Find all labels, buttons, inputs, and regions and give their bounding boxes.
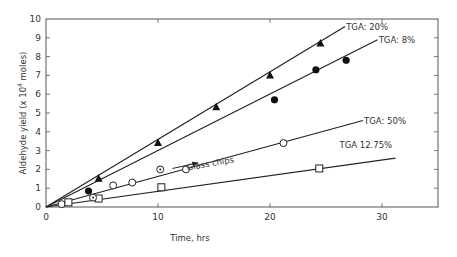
y-tick-label: 4: [35, 127, 41, 137]
open-square-marker: [316, 165, 323, 172]
data-markers: [58, 39, 350, 208]
x-tick-label: 10: [152, 212, 164, 222]
open-circle-marker: [129, 179, 136, 186]
x-tick-label: 30: [376, 212, 388, 222]
filled-circle-marker: [312, 66, 319, 73]
plot-area-border: [46, 19, 438, 207]
y-tick-label: 9: [35, 33, 41, 43]
x-axis-title: Time, hrs: [169, 233, 210, 243]
filled-circle-marker: [343, 57, 350, 64]
dotted-circle-center: [159, 168, 161, 170]
series-labels: TGA: 20%TGA: 8%TGA: 50%TGA 12.75%Glass c…: [186, 22, 415, 173]
open-square-marker: [65, 199, 72, 206]
fit-line: [46, 27, 345, 207]
filled-circle-marker: [85, 187, 92, 194]
series-label: Glass chips: [186, 154, 236, 172]
aldehyde-yield-chart: 0102030012345678910 TGA: 20%TGA: 8%TGA: …: [0, 0, 457, 257]
y-tick-label: 3: [35, 146, 41, 156]
filled-triangle-marker: [95, 174, 103, 182]
y-tick-label: 6: [35, 89, 41, 99]
y-axis-title: Aldehyde yield (x 104 moles): [16, 52, 28, 175]
x-tick-label: 0: [43, 212, 49, 222]
series-label: TGA: 50%: [363, 116, 406, 126]
fit-line: [46, 40, 378, 207]
y-tick-label: 2: [35, 164, 41, 174]
filled-circle-marker: [271, 96, 278, 103]
y-tick-label: 0: [35, 202, 41, 212]
open-circle-marker: [58, 201, 65, 208]
plot-frame: [46, 19, 438, 207]
x-tick-label: 20: [264, 212, 276, 222]
open-square-marker: [158, 184, 165, 191]
open-circle-marker: [110, 182, 117, 189]
y-tick-label: 10: [30, 14, 42, 24]
filled-triangle-marker: [266, 71, 274, 79]
series-label: TGA: 8%: [378, 35, 416, 45]
dotted-circle-center: [92, 197, 94, 199]
y-tick-label: 1: [35, 183, 41, 193]
series-label: TGA 12.75%: [338, 140, 392, 150]
y-tick-label: 8: [35, 52, 41, 62]
open-circle-marker: [280, 140, 287, 147]
filled-triangle-marker: [154, 139, 162, 147]
y-tick-label: 7: [35, 70, 41, 80]
series-label: TGA: 20%: [345, 22, 388, 32]
y-tick-label: 5: [35, 108, 41, 118]
